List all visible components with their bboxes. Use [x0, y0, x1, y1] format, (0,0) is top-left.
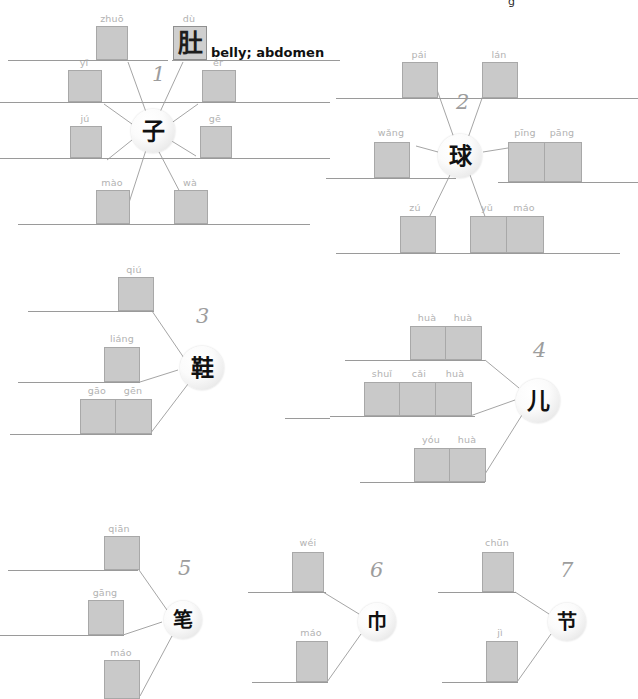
- cluster-number: 3: [196, 306, 209, 327]
- baseline-rule: [248, 592, 326, 593]
- pinyin-label: wéi: [290, 538, 326, 548]
- center-character-qiu: 球: [438, 134, 482, 178]
- pinyin-label: lán: [482, 50, 516, 60]
- answer-box-pingpang[interactable]: [508, 142, 582, 182]
- baseline-rule: [336, 253, 466, 254]
- baseline-rule: [196, 158, 330, 159]
- pinyin-label: wǎng: [372, 128, 410, 138]
- answer-cell[interactable]: [201, 127, 231, 157]
- answer-cell[interactable]: [105, 348, 139, 381]
- answer-cell[interactable]: [450, 449, 485, 481]
- answer-cell[interactable]: [411, 327, 446, 359]
- answer-cell[interactable]: [69, 71, 101, 101]
- answer-box-lan[interactable]: [482, 62, 518, 98]
- answer-box-zhuo[interactable]: [96, 26, 128, 60]
- answer-box-yi[interactable]: [68, 70, 102, 102]
- answer-cell[interactable]: [81, 400, 116, 433]
- answer-box-huahua[interactable]: [410, 326, 482, 360]
- answer-box-er[interactable]: [202, 70, 236, 102]
- answer-cell[interactable]: [105, 661, 139, 698]
- answer-cell[interactable]: [436, 383, 471, 415]
- answer-cell[interactable]: [471, 217, 507, 252]
- baseline-rule: [360, 482, 485, 483]
- pinyin-label: chūn: [478, 538, 516, 548]
- baseline-rule: [18, 382, 140, 383]
- answer-cell[interactable]: [97, 27, 127, 59]
- answer-cell[interactable]: [401, 217, 435, 252]
- answer-cell[interactable]: [293, 553, 323, 591]
- answer-cell[interactable]: [365, 383, 400, 415]
- answer-cell[interactable]: [487, 642, 517, 681]
- baseline-rule: [498, 182, 638, 183]
- answer-cell[interactable]: [446, 327, 481, 359]
- example-cell: 肚: [174, 27, 206, 59]
- pinyin-label: pái: [402, 50, 436, 60]
- answer-box-mao[interactable]: [296, 641, 328, 682]
- pinyin-label: huà: [446, 313, 480, 323]
- top-partial-text: g: [508, 0, 515, 7]
- cluster-number: 7: [560, 560, 573, 581]
- pinyin-label: huà: [438, 369, 472, 379]
- answer-cell[interactable]: [203, 71, 235, 101]
- answer-box-chun[interactable]: [482, 552, 514, 592]
- answer-box-pai[interactable]: [402, 62, 438, 98]
- answer-box-gang[interactable]: [88, 600, 124, 635]
- answer-cell[interactable]: [545, 143, 581, 181]
- answer-box-qiu[interactable]: [118, 277, 154, 311]
- answer-cell[interactable]: [89, 601, 123, 634]
- answer-box-mao[interactable]: [104, 660, 140, 699]
- answer-box-zu[interactable]: [400, 216, 436, 253]
- answer-cell[interactable]: [105, 537, 139, 569]
- answer-cell[interactable]: [97, 191, 129, 223]
- pinyin-label: cǎi: [402, 369, 436, 379]
- pinyin-label: máo: [294, 628, 328, 638]
- pinyin-label: máo: [506, 203, 542, 213]
- answer-cell[interactable]: [116, 400, 151, 433]
- answer-cell[interactable]: [507, 217, 543, 252]
- answer-cell[interactable]: [403, 63, 437, 97]
- pinyin-label: máo: [104, 648, 138, 658]
- center-character-zi: 子: [131, 109, 175, 153]
- pinyin-label: yǐ: [68, 58, 100, 68]
- answer-cell[interactable]: [297, 642, 327, 681]
- pinyin-label: qiān: [100, 524, 138, 534]
- baseline-rule: [345, 360, 485, 361]
- answer-cell[interactable]: [415, 449, 450, 481]
- baseline-rule: [0, 635, 124, 636]
- answer-cell[interactable]: [71, 127, 101, 157]
- answer-box-wei[interactable]: [292, 552, 324, 592]
- baseline-rule: [438, 592, 516, 593]
- pinyin-label: qiú: [118, 265, 150, 275]
- answer-box-ju[interactable]: [70, 126, 102, 158]
- pinyin-label: mào: [96, 178, 128, 188]
- answer-box-gaogen[interactable]: [80, 399, 152, 434]
- answer-box-yumao[interactable]: [470, 216, 544, 253]
- cluster-number: 5: [178, 558, 191, 579]
- answer-box-wa[interactable]: [174, 190, 208, 224]
- answer-box-liang[interactable]: [104, 347, 140, 382]
- answer-box-ji[interactable]: [486, 641, 518, 682]
- pinyin-label: liáng: [104, 334, 140, 344]
- answer-cell[interactable]: [400, 383, 435, 415]
- answer-box-mao[interactable]: [96, 190, 130, 224]
- pinyin-label: huà: [410, 313, 444, 323]
- answer-box-shuicaihua[interactable]: [364, 382, 472, 416]
- answer-cell[interactable]: [175, 191, 207, 223]
- answer-box-wang[interactable]: [374, 142, 410, 178]
- answer-cell[interactable]: [483, 63, 517, 97]
- answer-cell[interactable]: [375, 143, 409, 177]
- center-character-xie: 鞋: [180, 346, 224, 390]
- pinyin-label: zú: [400, 203, 430, 213]
- answer-cell[interactable]: [483, 553, 513, 591]
- answer-box-qian[interactable]: [104, 536, 140, 570]
- answer-cell[interactable]: [119, 278, 153, 310]
- answer-cell[interactable]: [509, 143, 545, 181]
- baseline-rule: [10, 434, 152, 435]
- baseline-rule: [252, 682, 328, 683]
- cluster-number: 1: [152, 64, 165, 85]
- pinyin-label: wà: [174, 178, 206, 188]
- answer-box-youhua[interactable]: [414, 448, 486, 482]
- pinyin-label: ér: [202, 58, 234, 68]
- answer-box-ge[interactable]: [200, 126, 232, 158]
- pinyin-label: pīng: [508, 128, 542, 138]
